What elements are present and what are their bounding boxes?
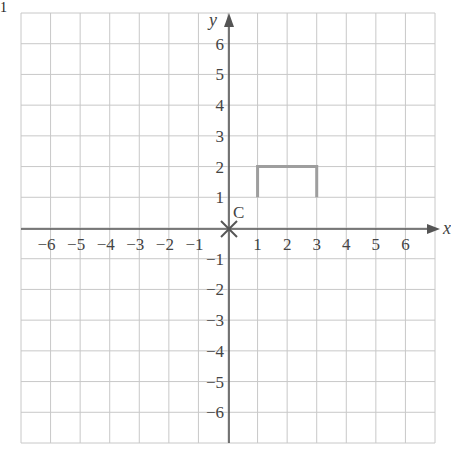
y-tick-label: 4 [216, 96, 225, 115]
y-tick-label: −6 [206, 403, 224, 422]
y-axis-arrow-icon [224, 13, 234, 27]
y-tick-label: 3 [216, 127, 225, 146]
x-tick-label: −3 [126, 235, 144, 254]
x-tick-label: −1 [185, 235, 203, 254]
x-tick-label: −2 [156, 235, 174, 254]
x-tick-label: 6 [401, 235, 410, 254]
x-tick-label: 4 [342, 235, 351, 254]
y-axis-label: y [207, 10, 217, 30]
axes: x y [21, 10, 451, 443]
x-tick-label: 3 [312, 235, 321, 254]
y-tick-label: −4 [206, 342, 225, 361]
y-tick-label: −3 [206, 311, 224, 330]
x-tick-label: 5 [372, 235, 381, 254]
x-axis-arrow-icon [427, 224, 440, 234]
y-tick-label: −5 [206, 373, 224, 392]
coordinate-grid: x y −6−5−4−3−2−1123456654321−1−2−3−4−5−6… [0, 0, 451, 456]
x-tick-label: 2 [283, 235, 292, 254]
x-tick-label: −5 [67, 235, 85, 254]
point-c-label: C [233, 203, 244, 222]
x-axis-label: x [442, 218, 451, 238]
y-tick-label: 5 [216, 65, 225, 84]
y-tick-label: 2 [216, 158, 225, 177]
y-tick-label: 1 [216, 188, 225, 207]
y-tick-label: −1 [206, 250, 224, 269]
x-tick-label: −6 [38, 235, 56, 254]
y-tick-label: −2 [206, 280, 224, 299]
x-tick-label: −4 [97, 235, 116, 254]
y-tick-label: 6 [216, 35, 225, 54]
x-tick-label: 1 [253, 235, 262, 254]
